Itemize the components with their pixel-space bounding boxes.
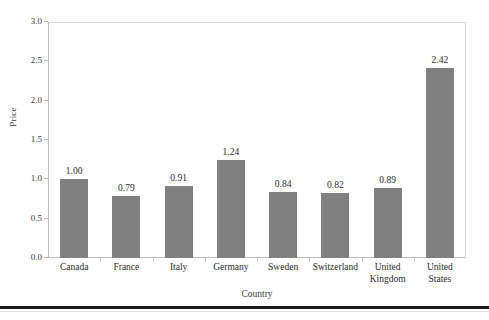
x-tick-label-line: Kingdom bbox=[362, 274, 414, 286]
x-axis-tick bbox=[309, 258, 310, 262]
x-tick-label: Canada bbox=[48, 262, 100, 274]
bar[interactable] bbox=[374, 188, 402, 258]
y-tick-label: 0.0 bbox=[31, 252, 42, 262]
y-tick-mark bbox=[44, 257, 48, 258]
x-tick-label: UnitedKingdom bbox=[362, 262, 414, 285]
x-axis-tick bbox=[153, 258, 154, 262]
x-tick-label: UnitedStates bbox=[414, 262, 466, 285]
y-tick-mark bbox=[44, 139, 48, 140]
x-tick-label-line: United bbox=[375, 262, 401, 272]
footer-rule bbox=[0, 306, 489, 309]
y-tick-mark bbox=[44, 21, 48, 22]
x-tick-label-line: Switzerland bbox=[313, 262, 358, 272]
x-tick-label: Italy bbox=[153, 262, 205, 274]
x-axis-tick bbox=[362, 258, 363, 262]
y-tick-mark bbox=[44, 178, 48, 179]
x-tick-label-line: States bbox=[414, 274, 466, 286]
bar-value-label: 0.82 bbox=[309, 180, 361, 190]
x-tick-label: Germany bbox=[205, 262, 257, 274]
y-tick-label: 0.5 bbox=[31, 213, 42, 223]
y-tick-label: 1.0 bbox=[31, 173, 42, 183]
y-tick-mark bbox=[44, 60, 48, 61]
plot-area bbox=[48, 22, 466, 258]
y-tick-mark bbox=[44, 100, 48, 101]
bar-value-label: 0.84 bbox=[257, 179, 309, 189]
bar-value-label: 0.91 bbox=[153, 173, 205, 183]
y-axis-title: Price bbox=[8, 87, 18, 147]
x-axis-title: Country bbox=[48, 289, 466, 299]
bar[interactable] bbox=[217, 160, 245, 258]
bar[interactable] bbox=[60, 179, 88, 258]
y-tick-mark bbox=[44, 218, 48, 219]
x-axis-tick bbox=[100, 258, 101, 262]
x-axis-tick bbox=[414, 258, 415, 262]
y-tick-label: 1.5 bbox=[31, 134, 42, 144]
bar-value-label: 2.42 bbox=[414, 55, 466, 65]
x-axis-tick bbox=[257, 258, 258, 262]
bar[interactable] bbox=[269, 192, 297, 258]
bar-value-label: 0.89 bbox=[362, 175, 414, 185]
bar-value-label: 0.79 bbox=[100, 183, 152, 193]
x-tick-label-line: United bbox=[427, 262, 453, 272]
x-tick-label-line: Canada bbox=[60, 262, 89, 272]
x-tick-label: Sweden bbox=[257, 262, 309, 274]
bar-value-label: 1.24 bbox=[205, 147, 257, 157]
x-tick-label-line: Italy bbox=[170, 262, 187, 272]
bar-chart-figure: Price 3.02.52.01.51.00.50.0 CanadaFrance… bbox=[0, 0, 489, 320]
x-tick-label-line: Germany bbox=[213, 262, 248, 272]
bar[interactable] bbox=[165, 186, 193, 258]
y-tick-label: 2.5 bbox=[31, 55, 42, 65]
y-tick-label: 2.0 bbox=[31, 95, 42, 105]
x-tick-label-line: Sweden bbox=[268, 262, 298, 272]
y-tick-label: 3.0 bbox=[31, 16, 42, 26]
footer-rule-thin bbox=[0, 311, 489, 312]
bar[interactable] bbox=[112, 196, 140, 258]
bar[interactable] bbox=[321, 193, 349, 258]
x-tick-label: Switzerland bbox=[309, 262, 361, 274]
bar-value-label: 1.00 bbox=[48, 166, 100, 176]
x-tick-label-line: France bbox=[113, 262, 139, 272]
x-tick-label: France bbox=[100, 262, 152, 274]
x-axis-tick bbox=[205, 258, 206, 262]
bar[interactable] bbox=[426, 68, 454, 258]
